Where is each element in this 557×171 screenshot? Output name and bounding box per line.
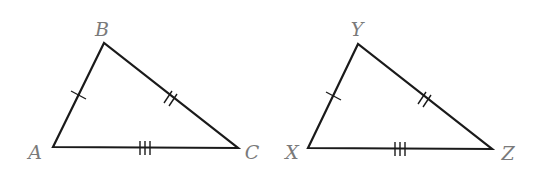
congruent-triangles-figure xyxy=(0,0,557,171)
vertex-label-x: X xyxy=(285,143,299,162)
triangle-xyz xyxy=(308,44,492,156)
triangle-abc xyxy=(53,43,238,155)
vertex-label-a: A xyxy=(28,143,42,162)
vertex-label-b: B xyxy=(95,20,109,39)
vertex-label-z: Z xyxy=(501,144,514,163)
side-ab-tick-mark xyxy=(71,91,86,99)
vertex-label-c: C xyxy=(245,143,260,162)
vertex-label-y: Y xyxy=(351,20,364,39)
